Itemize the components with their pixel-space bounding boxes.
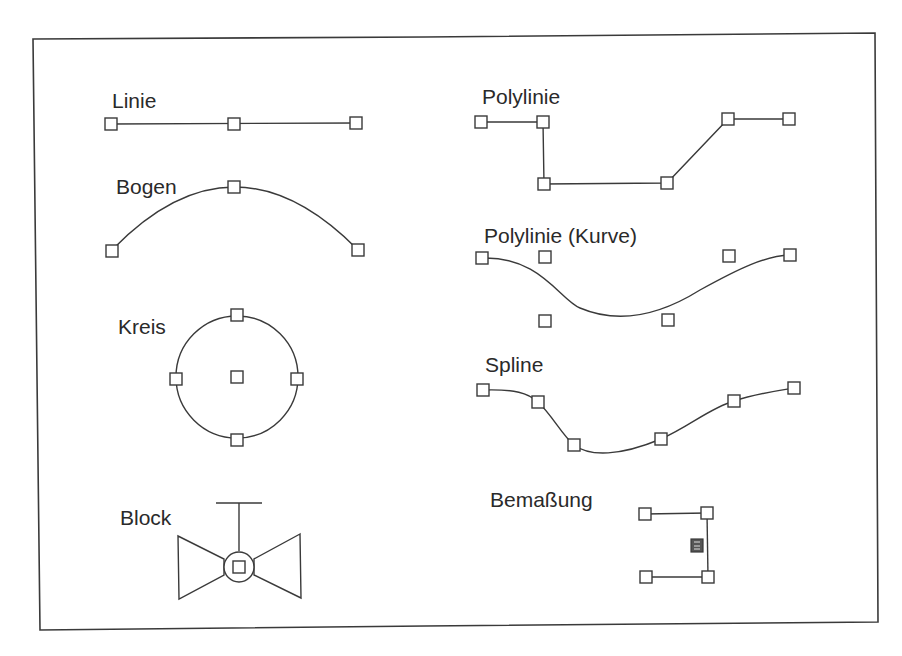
extension-line-top bbox=[645, 513, 707, 514]
curve-fit-polyline bbox=[482, 255, 790, 316]
entity-polylinie: Polylinie bbox=[475, 85, 795, 190]
entity-polylinie-kurve: Polylinie (Kurve) bbox=[476, 224, 796, 327]
grip-icon[interactable] bbox=[352, 244, 364, 256]
valve-right-triangle bbox=[254, 534, 301, 598]
grip-icon[interactable] bbox=[532, 396, 544, 408]
grip-icon[interactable] bbox=[661, 177, 673, 189]
entity-bemassung: Bemaßung bbox=[490, 488, 714, 583]
grip-icon[interactable] bbox=[105, 118, 117, 130]
grip-icon[interactable] bbox=[655, 433, 667, 445]
grip-icon[interactable] bbox=[228, 118, 240, 130]
grip-icon[interactable] bbox=[231, 371, 243, 383]
label-kreis: Kreis bbox=[118, 315, 166, 338]
grip-icon[interactable] bbox=[640, 571, 652, 583]
entity-spline: Spline bbox=[477, 353, 800, 453]
grip-icon[interactable] bbox=[231, 434, 243, 446]
grip-icon[interactable] bbox=[350, 117, 362, 129]
grip-icon[interactable] bbox=[783, 113, 795, 125]
grip-icon[interactable] bbox=[722, 113, 734, 125]
label-polylinie-kurve: Polylinie (Kurve) bbox=[484, 224, 637, 247]
label-linie: Linie bbox=[112, 89, 156, 112]
grip-icon[interactable] bbox=[639, 508, 651, 520]
grip-icon[interactable] bbox=[539, 251, 551, 263]
grip-icon[interactable] bbox=[228, 181, 240, 193]
valve-left-triangle bbox=[178, 536, 224, 599]
label-block: Block bbox=[120, 506, 172, 529]
grip-icon[interactable] bbox=[539, 315, 551, 327]
cad-entity-grips-figure: Linie Bogen Kreis Block Polylinie bbox=[0, 0, 902, 656]
label-bemassung: Bemaßung bbox=[490, 488, 593, 511]
grip-icon[interactable] bbox=[477, 384, 489, 396]
grip-icon[interactable] bbox=[476, 252, 488, 264]
entity-block: Block bbox=[120, 503, 301, 599]
grip-icon[interactable] bbox=[702, 571, 714, 583]
grip-icon[interactable] bbox=[106, 245, 118, 257]
grip-icon[interactable] bbox=[788, 382, 800, 394]
entity-kreis: Kreis bbox=[118, 309, 303, 446]
grip-icon[interactable] bbox=[537, 116, 549, 128]
polyline bbox=[481, 119, 789, 184]
grip-icon[interactable] bbox=[291, 373, 303, 385]
spline-curve bbox=[483, 388, 794, 453]
grip-icon[interactable] bbox=[231, 309, 243, 321]
label-bogen: Bogen bbox=[116, 175, 177, 198]
dimension-line bbox=[707, 513, 708, 577]
grip-icon[interactable] bbox=[475, 116, 487, 128]
grip-icon[interactable] bbox=[784, 249, 796, 261]
label-polylinie: Polylinie bbox=[482, 85, 560, 108]
grip-icon[interactable] bbox=[233, 561, 245, 573]
grip-icon[interactable] bbox=[170, 373, 182, 385]
entity-linie: Linie bbox=[105, 89, 362, 130]
grip-icon[interactable] bbox=[662, 314, 674, 326]
grip-icon[interactable] bbox=[723, 250, 735, 262]
grip-icon[interactable] bbox=[701, 507, 713, 519]
grip-icon[interactable] bbox=[728, 395, 740, 407]
label-spline: Spline bbox=[485, 353, 543, 376]
entity-bogen: Bogen bbox=[106, 175, 364, 257]
grip-icon[interactable] bbox=[538, 178, 550, 190]
grip-icon[interactable] bbox=[568, 439, 580, 451]
